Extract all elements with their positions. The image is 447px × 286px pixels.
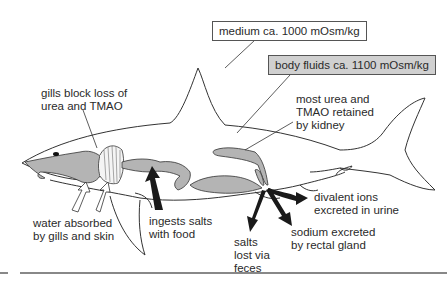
ingest-arrow	[145, 166, 163, 210]
feces-arrow	[247, 190, 266, 232]
medium-osmolality-box: medium ca. 1000 mOsm/kg	[212, 21, 367, 41]
label-kidney: most urea and TMAO retained by kidney	[296, 93, 374, 132]
bottom-rule-stub	[0, 272, 8, 274]
mouth-shaded	[25, 151, 100, 183]
intestine	[190, 176, 262, 193]
eye	[53, 152, 59, 156]
shark-diagram	[0, 0, 447, 286]
label-water-absorbed: water absorbed by gills and skin	[33, 217, 114, 243]
label-gills-block: gills block loss of urea and TMAO	[41, 87, 127, 113]
body-fluids-osmolality-box: body fluids ca. 1100 mOsm/kg	[268, 55, 436, 75]
label-sodium-rectal: sodium excreted by rectal gland	[291, 226, 375, 252]
label-salts-feces: salts lost via feces	[234, 236, 270, 275]
label-ingests-salts: ingests salts with food	[149, 215, 212, 241]
bottom-rule	[20, 272, 447, 274]
gills-hatched	[100, 146, 124, 184]
water-arrows	[72, 182, 110, 212]
label-divalent-ions: divalent ions excreted in urine	[314, 191, 399, 217]
